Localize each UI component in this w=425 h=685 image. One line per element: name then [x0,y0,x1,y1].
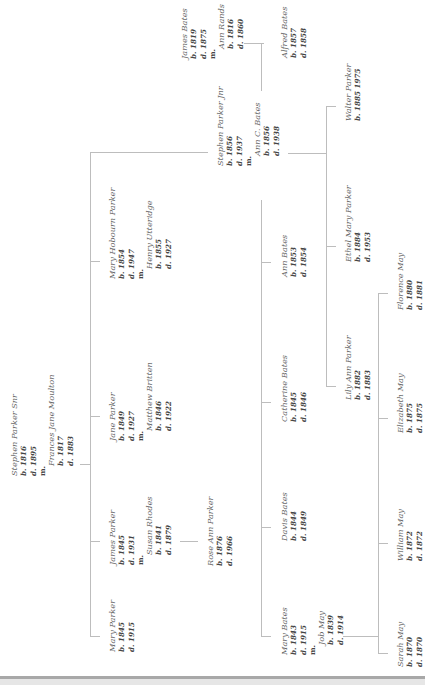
person-name: Davis Bates [280,492,289,541]
person-name: William May [396,509,405,561]
birth-date: b. 1872 [405,509,414,561]
spouse-death-date: d. 1922 [164,362,173,441]
person-mary-parker: Mary Parker b. 1845 d. 1915 [108,600,136,652]
connector-line [378,418,388,419]
birth-date: b. 1845 [289,355,298,422]
death-date: d. 1846 [299,355,308,422]
connector-line [180,541,198,542]
person-william-may: William May b. 1872 d. 1872 [396,509,424,561]
death-date: d. 1872 [415,509,424,561]
death-date: d. 1858 [299,7,308,58]
spouse-death-date: d. 1914 [336,607,345,655]
birth-date: b. 1816 [19,374,28,476]
death-date: d. 1881 [415,253,424,310]
death-date: d. 1895 [29,374,38,476]
death-date: d. 1915 [299,607,308,655]
spouse-name: Ann C. Bates [253,86,262,166]
person-davis-bates: Davis Bates b. 1844 d. 1849 [280,492,308,541]
person-name: Jane Parker [108,362,117,441]
spouse-death-date: d. 1938 [272,86,281,166]
person-name: Florence May [396,253,405,310]
spouse-name: Frances Jane Moulton [47,374,56,476]
person-sarah-may: Sarah May b. 1870 d. 1870 [396,622,424,667]
death-date: d. 1875 [199,4,208,59]
birth-date: b. 1882 [353,335,362,400]
person-florence-may: Florence May b. 1880 d. 1881 [396,253,424,310]
spouse-birth-date: b. 1839 [326,607,335,655]
connector-line [378,543,388,544]
person-walter-parker: Walter Parker b. 1885 1975 [344,63,363,121]
death-date: d. 1931 [127,497,136,566]
spouse-death-date: d. 1860 [236,4,245,59]
person-jane-parker: Jane Parker b. 1849 d. 1927 m. Matthew B… [108,362,173,441]
spouse-death-date: d. 1879 [164,497,173,566]
connector-line [343,636,379,637]
spouse-birth-date: b. 1856 [262,86,271,166]
birth-date: b. 1845 [117,497,126,566]
spouse-birth-date: b. 1816 [226,4,235,59]
person-name: Mary Parker [108,600,117,652]
death-date: d. 1937 [235,86,244,166]
birth-date: b. 1875 [405,373,414,433]
death-date: d. 1966 [225,497,234,566]
spouse-birth-date: b. 1846 [154,362,163,441]
connector-line [378,293,388,294]
death-date: d. 1927 [127,362,136,441]
birth-date: b. 1849 [117,362,126,441]
person-ann-bates: Ann Bates b. 1853 d. 1854 [280,235,308,277]
page-edge-shadow [0,679,425,685]
death-date: d. 1870 [415,622,424,667]
person-lily-ann-parker: Lily Ann Parker b. 1882 d. 1883 [344,335,372,400]
person-alfred-bates: Alfred Bates b. 1857 d. 1858 [280,7,308,58]
person-mary-bates: Mary Bates b. 1843 d. 1915 m. Job May b.… [280,607,345,655]
death-date: d. 1875 [415,373,424,433]
birth-date: b. 1876 [215,497,224,566]
birth-date: b. 1857 [289,7,298,58]
birth-date: b. 1843 [289,607,298,655]
death-date: d. 1947 [127,188,136,279]
connector-line [90,152,208,153]
connector-line [326,386,336,387]
spouse-death-date: d. 1927 [164,188,173,279]
spouse-name: Susan Rhodes [145,497,154,566]
connector-line [378,653,388,654]
birth-date: b. 1856 [225,86,234,166]
death-date: d. 1854 [299,235,308,277]
person-name: Alfred Bates [280,7,289,58]
connector-line [261,43,262,91]
person-elizabeth-may: Elizabeth May b. 1875 d. 1875 [396,373,424,433]
connector-line [261,262,271,263]
person-name: Lily Ann Parker [344,335,353,400]
birth-date: b. 1870 [405,622,414,667]
connector-line [261,527,271,528]
person-james-parker: James Parker b. 1845 d. 1931 m. Susan Rh… [108,497,173,566]
person-name: Elizabeth May [396,373,405,433]
person-name: James Bates [180,4,189,59]
connector-line [378,293,379,653]
birth-date: b. 1844 [289,492,298,541]
person-name: Mary Hobourn Parker [108,188,117,279]
person-name: Catherine Bates [280,355,289,422]
birth-date: b. 1884 [353,185,362,262]
person-name: Rose Ann Parker [206,497,215,566]
connector-line [80,464,90,465]
connector-line [261,636,271,637]
person-catherine-bates: Catherine Bates b. 1845 d. 1846 [280,355,308,422]
person-rose-ann-parker: Rose Ann Parker b. 1876 d. 1966 [206,497,234,566]
connector-line [90,541,100,542]
person-stephen-parker-snr: Stephen Parker Snr b. 1816 d. 1895 m. Fr… [10,374,75,476]
person-stephen-parker-jnr: Stephen Parker Jnr b. 1856 d. 1937 m. An… [216,86,281,166]
spouse-name: Matthew Britten [145,362,154,441]
person-name: Sarah May [396,622,405,667]
death-date: d. 1883 [363,335,372,400]
person-james-bates: James Bates b. 1819 d. 1875 m. Ann Rands… [180,4,245,59]
connector-line [326,106,336,107]
birth-date: b. 1854 [117,188,126,279]
spouse-name: Henry Utteridge [145,188,154,279]
person-name: Mary Bates [280,607,289,655]
spouse-name: Job May [317,607,326,655]
birth-date: b. 1819 [189,4,198,59]
person-mary-hobourn-parker: Mary Hobourn Parker b. 1854 d. 1947 m. H… [108,188,173,279]
connector-line [90,636,100,637]
person-name: Walter Parker [344,63,353,121]
